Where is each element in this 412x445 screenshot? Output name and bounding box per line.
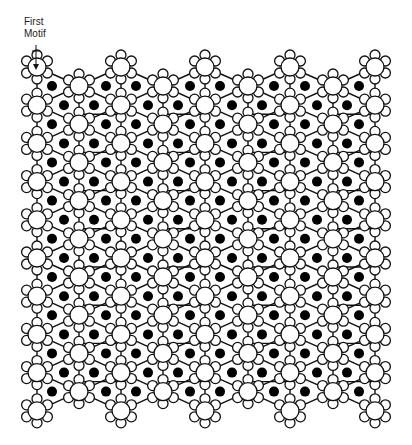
flower-motif-icon — [275, 203, 306, 237]
flower-motif-icon — [360, 203, 391, 237]
flower-motif-icon — [275, 126, 306, 160]
flower-motif-icon — [190, 241, 221, 275]
flower-motif-icon — [106, 394, 137, 428]
flower-motif-icon — [275, 241, 306, 275]
flower-motif-icon — [275, 394, 306, 428]
flower-motif-icon — [233, 298, 264, 332]
flower-motif-icon — [360, 394, 391, 428]
flower-motif-icon — [360, 279, 391, 313]
flower-motif-icon — [318, 184, 349, 218]
flower-motif-icon — [148, 184, 179, 218]
flower-motif-icon — [148, 298, 179, 332]
flower-motif-icon — [318, 375, 349, 409]
flower-motif-icon — [233, 184, 264, 218]
flower-motif-icon — [22, 279, 53, 313]
flower-motif-icon — [275, 317, 306, 351]
flower-motif-icon — [64, 298, 95, 332]
flower-motif-icon — [275, 356, 306, 390]
flower-motif-icon — [360, 356, 391, 390]
flower-motif-icon — [275, 279, 306, 313]
flower-motif-icon — [106, 241, 137, 275]
flower-motif-icon — [22, 88, 53, 122]
flower-motif-icon — [318, 336, 349, 370]
flower-motif-icon — [233, 375, 264, 409]
flower-motif-icon — [190, 88, 221, 122]
flower-motif-icon — [190, 356, 221, 390]
flower-motif-icon — [22, 356, 53, 390]
flower-motif-icon — [318, 107, 349, 141]
flower-motif-icon — [106, 50, 137, 84]
flower-motif-icon — [275, 165, 306, 199]
flower-motif-icon — [148, 336, 179, 370]
flower-motif-icon — [22, 317, 53, 351]
flower-motif-icon — [64, 145, 95, 179]
flower-motif-icon — [148, 107, 179, 141]
flower-motif-icon — [190, 165, 221, 199]
flower-motif-icon — [233, 69, 264, 103]
flower-motif-icon — [318, 69, 349, 103]
motif-lattice-diagram — [0, 0, 412, 445]
flower-motif-icon — [64, 375, 95, 409]
flower-motif-icon — [190, 50, 221, 84]
flower-motif-icon — [64, 260, 95, 294]
flower-motif-icon — [106, 165, 137, 199]
flower-motif-icon — [360, 126, 391, 160]
flower-motif-icon — [233, 260, 264, 294]
flower-motif-icon — [22, 126, 53, 160]
flower-motif-icon — [190, 126, 221, 160]
flower-motif-icon — [64, 184, 95, 218]
flower-motif-icon — [190, 317, 221, 351]
flower-motif-icon — [275, 88, 306, 122]
flower-motif-icon — [233, 145, 264, 179]
flower-motif-icon — [275, 50, 306, 84]
flower-motif-icon — [360, 165, 391, 199]
flower-motif-icon — [318, 298, 349, 332]
flower-motif-icon — [148, 222, 179, 256]
flower-motif-icon — [190, 394, 221, 428]
flower-motif-icon — [148, 69, 179, 103]
flower-motif-icon — [64, 107, 95, 141]
flower-motif-icon — [318, 145, 349, 179]
flower-motif-icon — [233, 336, 264, 370]
flower-motif-icon — [64, 222, 95, 256]
flower-motif-icon — [360, 241, 391, 275]
flower-motif-icon — [233, 107, 264, 141]
flower-motif-icon — [190, 279, 221, 313]
flower-motif-icon — [360, 50, 391, 84]
flower-motif-icon — [106, 317, 137, 351]
flower-motif-icon — [106, 356, 137, 390]
flower-motif-icon — [106, 126, 137, 160]
flower-motifs — [22, 50, 391, 428]
flower-motif-icon — [106, 88, 137, 122]
flower-motif-icon — [360, 317, 391, 351]
flower-motif-icon — [233, 222, 264, 256]
flower-motif-icon — [106, 279, 137, 313]
flower-motif-icon — [64, 336, 95, 370]
flower-motif-icon — [318, 260, 349, 294]
flower-motif-icon — [64, 69, 95, 103]
flower-motif-icon — [148, 260, 179, 294]
flower-motif-icon — [148, 145, 179, 179]
flower-motif-icon — [190, 203, 221, 237]
flower-motif-icon — [22, 203, 53, 237]
flower-motif-icon — [360, 88, 391, 122]
flower-motif-icon — [318, 222, 349, 256]
flower-motif-icon — [148, 375, 179, 409]
flower-motif-icon — [22, 241, 53, 275]
flower-motif-icon — [22, 394, 53, 428]
flower-motif-icon — [22, 165, 53, 199]
flower-motif-icon — [106, 203, 137, 237]
